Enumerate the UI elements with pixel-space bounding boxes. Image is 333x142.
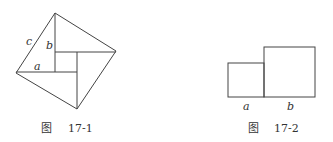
diagram-canvas: c b a 图 17-1 a b 图 17-2	[0, 0, 333, 142]
caption-prefix: 图	[248, 122, 259, 135]
small-square-a	[228, 63, 264, 97]
outer-square-c	[16, 13, 116, 109]
caption-prefix: 图	[41, 122, 52, 135]
caption-number: 17-2	[274, 122, 299, 135]
caption-number: 17-1	[68, 122, 93, 135]
large-square-b	[264, 47, 315, 97]
label-c: c	[26, 35, 32, 48]
figure-17-2: a b 图 17-2	[228, 47, 315, 135]
label-b: b	[46, 39, 53, 52]
label-b: b	[287, 100, 294, 113]
label-a: a	[34, 60, 41, 73]
figure-17-1: c b a 图 17-1	[16, 13, 116, 135]
label-a: a	[243, 100, 250, 113]
